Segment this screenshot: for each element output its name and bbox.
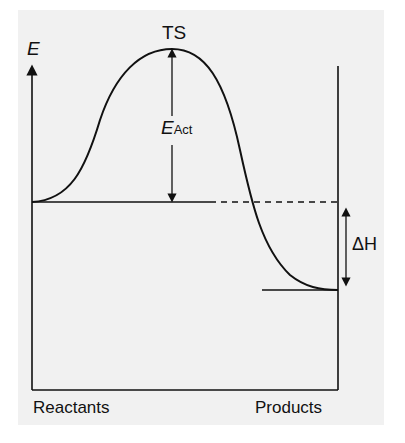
activation-energy-subscript: Act [174,122,193,137]
enthalpy-change-label: ΔH [352,234,377,255]
products-label: Products [255,398,322,418]
activation-energy-main: E [161,117,174,138]
reactants-label: Reactants [33,398,110,418]
energy-diagram [0,0,405,443]
activation-energy-label: EAct [160,116,193,140]
reaction-curve [32,49,338,290]
energy-axis-label: E [27,38,40,60]
transition-state-label: TS [162,22,186,44]
